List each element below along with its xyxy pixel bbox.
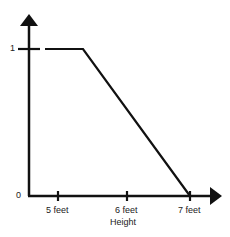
chart-plot — [0, 0, 230, 237]
x-tick-label-6: 6 feet — [115, 205, 138, 215]
x-tick-label-7: 7 feet — [178, 205, 201, 215]
chart: 1 0 5 feet 6 feet 7 feet Height — [0, 0, 230, 237]
x-axis-title: Height — [110, 217, 136, 227]
y-tick-label-1: 1 — [10, 43, 15, 53]
x-axis-arrow-icon — [210, 187, 222, 205]
x-tick-label-5: 5 feet — [46, 205, 69, 215]
y-axis-arrow-icon — [20, 14, 38, 26]
membership-line — [45, 49, 190, 196]
y-tick-label-0: 0 — [16, 190, 21, 200]
